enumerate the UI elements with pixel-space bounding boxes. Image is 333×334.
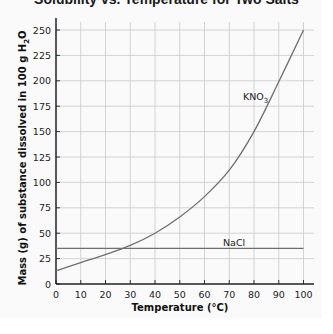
x-tick-label: 60 [198, 289, 210, 300]
y-tick-label: 175 [33, 101, 51, 112]
x-tick-label: 20 [99, 289, 111, 300]
x-tick-label: 30 [124, 289, 136, 300]
y-axis-label: Mass (g) of substance dissolved in 100 g… [17, 30, 31, 285]
nacl-label: NaCl [223, 237, 245, 248]
x-tick-label: 70 [223, 289, 235, 300]
x-tick-label: 0 [53, 289, 59, 300]
y-tick-label: 250 [33, 25, 51, 36]
y-tick-label: 25 [39, 253, 51, 264]
y-tick-label: 0 [45, 279, 51, 290]
y-tick-label: 225 [33, 50, 51, 61]
x-axis-label: Temperature (°C) [132, 302, 229, 313]
x-tick-label: 10 [75, 289, 87, 300]
kno3-label: KNO3 [243, 91, 268, 105]
x-tick-label: 40 [149, 289, 161, 300]
gridlines [56, 22, 314, 284]
y-tick-label: 75 [39, 202, 51, 213]
x-tick-label: 50 [174, 289, 186, 300]
x-tick-label: 90 [273, 289, 285, 300]
y-tick-label: 50 [39, 228, 51, 239]
x-tick-label: 80 [248, 289, 260, 300]
y-tick-label: 200 [33, 75, 51, 86]
y-tick-label: 100 [33, 177, 51, 188]
chart-plot: 0102030405060708090100025507510012515017… [0, 0, 333, 334]
y-tick-label: 125 [33, 152, 51, 163]
y-tick-label: 150 [33, 126, 51, 137]
axes [56, 18, 314, 284]
x-tick-label: 100 [294, 289, 312, 300]
